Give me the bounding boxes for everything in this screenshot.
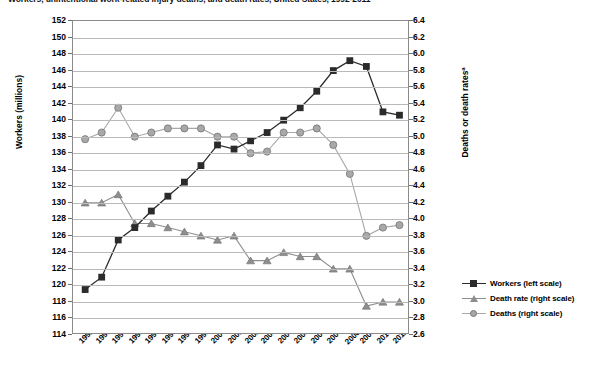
data-point xyxy=(313,88,320,95)
y-axis-right-tick-mark xyxy=(409,334,413,335)
y-axis-left-tick-label: 116 xyxy=(36,313,66,322)
y-axis-right-tick-mark xyxy=(409,317,413,318)
gridline xyxy=(73,153,408,154)
series-square xyxy=(82,57,403,293)
y-axis-right-tick-mark xyxy=(409,152,413,153)
y-axis-right-tick-label: 5.0 xyxy=(413,132,443,141)
gridline xyxy=(73,318,408,319)
y-axis-left-tick-label: 150 xyxy=(36,33,66,42)
y-axis-right-tick-label: 6.4 xyxy=(413,16,443,25)
gridline xyxy=(73,137,408,138)
data-point xyxy=(148,208,155,215)
data-point xyxy=(181,125,188,132)
gridline xyxy=(73,71,408,72)
gridline xyxy=(73,219,408,220)
data-point xyxy=(198,162,205,169)
gridline xyxy=(73,87,408,88)
y-axis-right-tick-label: 6.0 xyxy=(413,49,443,58)
data-point xyxy=(396,222,403,229)
data-point xyxy=(346,57,353,64)
y-axis-right-tick-label: 4.0 xyxy=(413,214,443,223)
y-axis-right-tick-mark xyxy=(409,169,413,170)
y-axis-left-tick-label: 120 xyxy=(36,280,66,289)
y-axis-right-tick-mark xyxy=(409,37,413,38)
y-axis-left-tick-label: 134 xyxy=(36,165,66,174)
data-point xyxy=(264,129,271,136)
y-axis-left-tick-label: 136 xyxy=(36,148,66,157)
legend-item[interactable]: Deaths (right scale) xyxy=(462,306,602,321)
y-axis-right-tick-label: 5.6 xyxy=(413,82,443,91)
y-axis-right-tick-label: 3.2 xyxy=(413,280,443,289)
gridline xyxy=(73,38,408,39)
data-point xyxy=(164,193,171,200)
chart-legend: Workers (left scale)Death rate (right sc… xyxy=(462,276,602,321)
data-point xyxy=(214,142,221,149)
gridline xyxy=(73,269,408,270)
y-axis-left-tick-label: 126 xyxy=(36,231,66,240)
y-axis-right-tick-label: 4.2 xyxy=(413,198,443,207)
y-axis-left-tick-label: 124 xyxy=(36,247,66,256)
y-axis-right-tick-mark xyxy=(409,284,413,285)
y-axis-left-title: Workers (millions) xyxy=(14,37,24,187)
gridline xyxy=(73,285,408,286)
y-axis-right-tick-mark xyxy=(409,202,413,203)
y-axis-left-tick-label: 140 xyxy=(36,115,66,124)
y-axis-right-tick-mark xyxy=(409,301,413,302)
circle-marker-icon xyxy=(470,310,477,317)
data-point xyxy=(379,224,386,231)
y-axis-left-tick-label: 114 xyxy=(36,330,66,339)
legend-label: Workers (left scale) xyxy=(490,279,562,288)
data-point xyxy=(131,224,138,231)
data-point xyxy=(114,191,122,198)
gridline xyxy=(73,120,408,121)
y-axis-right-tick-label: 2.6 xyxy=(413,330,443,339)
y-axis-left-tick-label: 132 xyxy=(36,181,66,190)
legend-swatch xyxy=(462,308,486,319)
gridline xyxy=(73,203,408,204)
data-point xyxy=(98,274,105,281)
y-axis-right-tick-label: 3.0 xyxy=(413,297,443,306)
data-point xyxy=(313,125,320,132)
y-axis-left-tick-label: 152 xyxy=(36,16,66,25)
y-axis-right-tick-label: 4.4 xyxy=(413,181,443,190)
y-axis-left-tick-label: 122 xyxy=(36,264,66,273)
data-point xyxy=(297,129,304,136)
data-point xyxy=(380,108,387,115)
y-axis-left-tick-label: 146 xyxy=(36,66,66,75)
data-point xyxy=(115,237,122,244)
y-axis-right-tick-label: 3.4 xyxy=(413,264,443,273)
legend-label: Deaths (right scale) xyxy=(490,309,562,318)
y-axis-right-tick-label: 2.8 xyxy=(413,313,443,322)
y-axis-right-tick-mark xyxy=(409,20,413,21)
chart-title: Workers, unintentional work-related inju… xyxy=(8,0,588,4)
data-point xyxy=(231,146,238,153)
y-axis-right-tick-mark xyxy=(409,86,413,87)
data-point xyxy=(280,129,287,136)
y-axis-left-tick-label: 138 xyxy=(36,132,66,141)
y-axis-right-tick-label: 3.6 xyxy=(413,247,443,256)
y-axis-right-tick-mark xyxy=(409,53,413,54)
data-point xyxy=(115,104,122,111)
y-axis-left-tick-label: 148 xyxy=(36,49,66,58)
legend-label: Death rate (right scale) xyxy=(490,294,574,303)
y-axis-right-title-superscript: a xyxy=(460,67,466,70)
y-axis-left-tick-label: 118 xyxy=(36,297,66,306)
y-axis-right-tick-label: 6.2 xyxy=(413,33,443,42)
y-axis-right-tick-mark xyxy=(409,185,413,186)
y-axis-right-title-text: Deaths or death rates xyxy=(460,71,470,158)
y-axis-right-tick-mark xyxy=(409,103,413,104)
gridline xyxy=(73,236,408,237)
y-axis-left-tick-label: 128 xyxy=(36,214,66,223)
series-line xyxy=(85,195,399,307)
y-axis-right-tick-mark xyxy=(409,70,413,71)
legend-item[interactable]: Workers (left scale) xyxy=(462,276,602,291)
legend-item[interactable]: Death rate (right scale) xyxy=(462,291,602,306)
y-axis-right-tick-label: 5.2 xyxy=(413,115,443,124)
y-axis-right-title: Deaths or death ratesa xyxy=(460,37,471,187)
gridline xyxy=(73,54,408,55)
plot-area xyxy=(72,20,409,334)
y-axis-right-tick-mark xyxy=(409,218,413,219)
y-axis-right-tick-mark xyxy=(409,136,413,137)
gridline xyxy=(73,170,408,171)
gridline xyxy=(73,302,408,303)
